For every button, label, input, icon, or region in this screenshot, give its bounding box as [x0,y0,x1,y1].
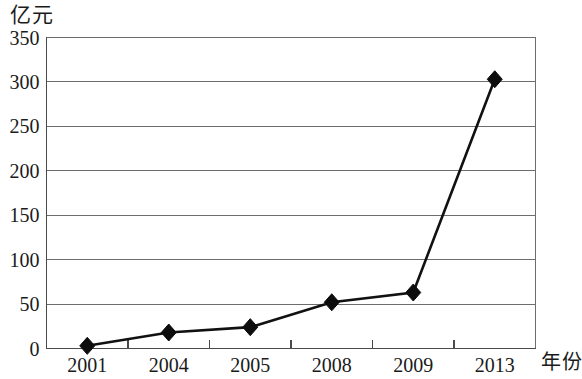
gridlines-group [47,82,536,304]
x-tick-label-2005: 2005 [230,354,270,376]
series-line [87,79,495,346]
data-point-2009 [406,284,421,301]
y-tick-label-300: 300 [10,71,40,93]
y-tick-label-350: 350 [10,27,40,49]
y-tick-label-0: 0 [30,338,40,360]
data-point-markers [80,71,503,355]
data-point-2008 [324,294,339,311]
x-tick-label-2009: 2009 [393,354,433,376]
data-point-2001 [80,337,95,354]
plot-frame [47,37,537,349]
data-point-2013 [487,71,502,88]
x-tick-label-2008: 2008 [312,354,352,376]
y-tick-label-200: 200 [10,160,40,182]
data-point-2005 [243,319,258,336]
y-tick-label-50: 50 [20,293,40,315]
y-axis-tick-labels: 050100150200250300350 [10,27,40,360]
line-chart: 亿元 年份 050100150200250300350 200120042005… [0,0,582,379]
x-axis-tick-labels: 200120042005200820092013 [67,354,515,376]
x-axis-tickmarks [128,340,454,349]
y-tick-label-250: 250 [10,115,40,137]
data-line-series [87,79,495,346]
y-tick-label-100: 100 [10,249,40,271]
data-point-2004 [161,324,176,341]
x-tick-label-2004: 2004 [149,354,189,376]
x-tick-label-2001: 2001 [67,354,107,376]
y-tick-label-150: 150 [10,204,40,226]
x-tick-label-2013: 2013 [475,354,515,376]
chart-plot-area: 050100150200250300350 200120042005200820… [0,0,582,379]
